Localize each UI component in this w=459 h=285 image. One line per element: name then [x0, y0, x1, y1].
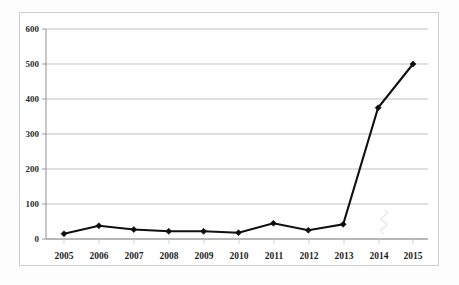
data-point-2013	[340, 221, 346, 227]
data-point-2009	[201, 228, 207, 234]
x-tick-label-2011: 2011	[265, 251, 284, 261]
line-chart: 600 500 400 300 200 100 0 2005 2006 2007…	[0, 0, 459, 285]
y-tick-label-200: 200	[26, 164, 40, 174]
data-point-2007	[131, 227, 137, 233]
x-tick-label-2012: 2012	[300, 251, 319, 261]
y-axis-tick-labels: 600 500 400 300 200 100 0	[26, 24, 40, 244]
y-tick-label-0: 0	[35, 234, 40, 244]
x-tick-label-2009: 2009	[195, 251, 214, 261]
x-tick-label-2015: 2015	[404, 251, 423, 261]
x-tick-label-2007: 2007	[125, 251, 144, 261]
y-tick-label-400: 400	[26, 94, 40, 104]
series-marker-group	[61, 61, 416, 237]
x-tick-label-2005: 2005	[55, 251, 74, 261]
y-tick-label-300: 300	[26, 129, 40, 139]
y-tick-label-100: 100	[26, 199, 40, 209]
data-point-2005	[61, 231, 67, 237]
x-tick-label-2014: 2014	[370, 251, 389, 261]
data-point-2008	[166, 228, 172, 234]
x-axis-tick-labels: 2005 2006 2007 2008 2009 2010 2011 2012 …	[55, 251, 423, 261]
series-line	[64, 64, 413, 234]
x-tick-label-2010: 2010	[230, 251, 249, 261]
data-point-2011	[270, 220, 276, 226]
scan-artifact	[381, 210, 388, 234]
x-tick-label-2006: 2006	[90, 251, 109, 261]
data-point-2010	[236, 230, 242, 236]
data-point-2006	[96, 223, 102, 229]
y-tick-label-500: 500	[26, 59, 40, 69]
y-tick-label-600: 600	[26, 24, 40, 34]
chart-figure: 600 500 400 300 200 100 0 2005 2006 2007…	[0, 0, 459, 285]
x-tick-label-2008: 2008	[160, 251, 179, 261]
x-tick-label-2013: 2013	[335, 251, 354, 261]
data-point-2012	[305, 227, 311, 233]
